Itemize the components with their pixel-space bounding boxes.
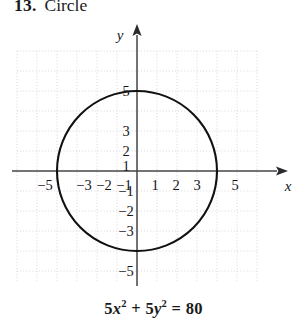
y-axis-label: y	[115, 27, 124, 43]
x-tick-label: 2	[172, 177, 179, 193]
equation-coeff-y: 5	[145, 298, 154, 317]
y-tick-label: 2	[122, 143, 129, 159]
x-tick-label: −3	[76, 177, 91, 193]
equation-exponent-x: 2	[121, 298, 127, 309]
equation-var-y: y	[154, 298, 162, 317]
y-axis	[132, 24, 141, 286]
equation-coeff-x: 5	[104, 298, 113, 317]
y-tick-label: −3	[118, 223, 133, 239]
y-tick-label: −5	[118, 263, 133, 279]
y-tick-label: 3	[122, 123, 129, 139]
x-tick-label: −5	[37, 177, 52, 193]
equation-text: 5x2 + 5y2 = 80	[104, 298, 203, 319]
y-tick-label: 5	[122, 83, 129, 99]
x-tick-label: −2	[96, 177, 111, 193]
y-tick-label: 1	[122, 158, 129, 174]
y-tick-label: −1	[118, 183, 133, 199]
x-tick-label: 5	[231, 177, 238, 193]
exercise-number: 13.	[14, 0, 36, 17]
page-title-label: Circle	[44, 0, 87, 17]
equation-caption: 5x2 + 5y2 = 80	[0, 294, 307, 322]
graph-svg: y x −5 −3 −2 −1 1 2 3 5 5 3 2 1 −1 −2 −3…	[0, 18, 307, 293]
equation-rhs: 80	[186, 298, 203, 317]
equation-equals-sign: =	[172, 298, 182, 317]
equation-var-x: x	[113, 298, 122, 317]
x-axis-label: x	[284, 178, 292, 194]
x-tick-label: 1	[151, 177, 158, 193]
x-axis	[12, 166, 288, 175]
x-tick-label: 3	[193, 177, 200, 193]
coordinate-plane: y x −5 −3 −2 −1 1 2 3 5 5 3 2 1 −1 −2 −3…	[0, 18, 307, 293]
equation-exponent-y: 2	[162, 298, 168, 309]
y-tick-label: −2	[118, 203, 133, 219]
equation-operator: +	[131, 298, 141, 317]
